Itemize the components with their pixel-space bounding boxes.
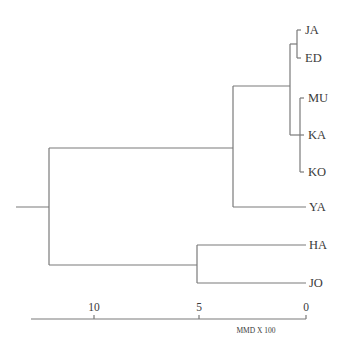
x-tick-label-0: 0	[303, 301, 309, 313]
leaf-label-ya: YA	[309, 200, 326, 214]
leaf-label-ja: JA	[305, 23, 319, 37]
leaf-label-ha: HA	[309, 238, 327, 252]
leaf-label-jo: JO	[309, 276, 323, 290]
x-tick-label-10: 10	[88, 301, 100, 313]
x-axis-title: MMD X 100	[236, 326, 275, 335]
leaf-label-ka: KA	[308, 128, 326, 142]
x-tick-label-5: 5	[196, 301, 202, 313]
leaf-label-ko: KO	[308, 165, 326, 179]
dendrogram: JA ED MU KA KO YA HA JO 10 5 0 MMD X 100	[0, 0, 347, 347]
leaf-label-mu: MU	[308, 91, 328, 105]
leaf-label-ed: ED	[305, 51, 322, 65]
